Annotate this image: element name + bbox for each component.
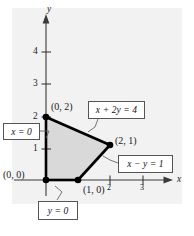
vertex-dot-0-2	[43, 114, 50, 121]
vertex-label-1-0: (1, 0)	[83, 185, 105, 195]
y-axis-label: y	[47, 5, 51, 15]
callout-x-minus-y-eq-1: x − y = 1	[118, 155, 173, 173]
callout-x-plus-2y-eq-4: x + 2y = 4	[88, 101, 145, 119]
x-axis-label: x	[177, 175, 181, 185]
x-tick-label-3: 3	[140, 184, 144, 192]
callout-y-eq-0: y = 0	[38, 201, 78, 220]
vertex-dot-1-0	[75, 177, 82, 184]
feasible-region-figure: y x 4 3 2 1 2 3 (0, 2) (2, 1) (0, 0) (1,…	[0, 0, 194, 236]
y-tick-label-3: 3	[33, 79, 38, 89]
vertex-label-2-1: (2, 1)	[115, 136, 137, 146]
y-tick-label-1: 1	[33, 144, 38, 154]
y-tick-label-4: 4	[33, 47, 38, 57]
y-tick-label-2: 2	[33, 112, 38, 122]
x-tick-label-2: 2	[107, 184, 111, 192]
vertex-dot-0-0	[43, 177, 50, 184]
callout-x-eq-0: x = 0	[3, 123, 40, 140]
vertex-label-0-0: (0, 0)	[3, 170, 25, 180]
vertex-dot-2-1	[107, 142, 114, 149]
vertex-label-0-2: (0, 2)	[51, 102, 73, 112]
